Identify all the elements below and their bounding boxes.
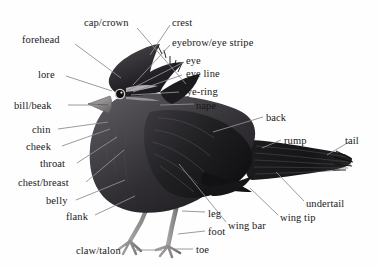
label-throat: throat (40, 158, 65, 169)
label-chin: chin (32, 124, 50, 135)
bird-anatomy-diagram: cap/crowncrestforeheadeyebrow/eye stripe… (0, 0, 380, 267)
label-eyebrow: eyebrow/eye stripe (172, 37, 253, 48)
label-back: back (266, 112, 286, 123)
label-belly: belly (46, 195, 68, 206)
label-eye-ring: eye-ring (182, 86, 218, 97)
label-tail: tail (345, 135, 359, 146)
label-lore: lore (38, 69, 55, 80)
label-undertail: undertail (306, 198, 344, 209)
label-eye: eye (186, 55, 201, 66)
label-flank: flank (66, 211, 88, 222)
label-wing-bar: wing bar (228, 220, 266, 231)
label-crest: crest (172, 17, 192, 28)
label-foot: foot (208, 226, 225, 237)
label-forehead: forehead (22, 34, 60, 45)
label-claw-talon: claw/talon (76, 245, 121, 256)
label-nape: nape (196, 100, 216, 111)
label-chest-breast: chest/breast (18, 177, 69, 188)
bird-tail (245, 140, 353, 180)
label-cheek: cheek (26, 141, 51, 152)
label-eye-line: eye line (186, 68, 220, 79)
label-leg: leg (208, 208, 221, 219)
label-bill-beak: bill/beak (14, 100, 52, 111)
label-rump: rump (284, 135, 307, 146)
label-cap-crown: cap/crown (84, 17, 129, 28)
label-wing-tip: wing tip (280, 212, 316, 223)
bird-eye-highlight (120, 92, 122, 94)
label-toe: toe (196, 244, 209, 255)
